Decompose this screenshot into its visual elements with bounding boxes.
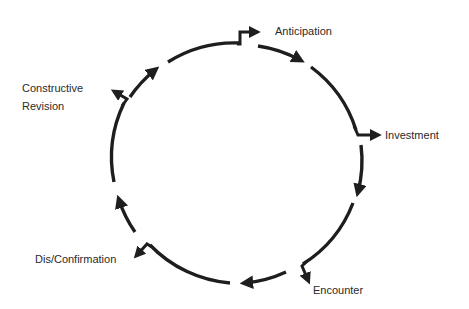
cycle-arc-upper-left: [130, 70, 155, 97]
cycle-arc-bottom-right: [245, 272, 286, 283]
cycle-arc-upper-right: [311, 67, 356, 130]
cycle-arc-left: [112, 103, 124, 182]
disconfirmation-branch-arrow: [137, 244, 152, 255]
constructive-revision-branch-arrow: [115, 92, 127, 106]
cycle-arc-lower-right: [303, 203, 353, 264]
stage-label-constructive-revision: Constructive Revision: [22, 81, 83, 113]
cycle-arc-lower-left: [119, 200, 135, 232]
stage-label-anticipation: Anticipation: [275, 24, 332, 38]
cycle-arc-anticipation-to-investment: [258, 46, 300, 60]
stage-label-encounter: Encounter: [313, 283, 363, 297]
stage-label-constructive-revision-line1: Constructive: [22, 81, 83, 95]
cycle-arc-bottom-left: [150, 245, 230, 283]
stage-label-dis-confirmation: Dis/Confirmation: [35, 252, 116, 266]
cycle-arc-right: [358, 145, 362, 192]
encounter-branch-arrow: [302, 262, 308, 280]
cycle-arc-top: [168, 43, 240, 62]
investment-branch-arrow: [354, 126, 377, 135]
stage-label-investment: Investment: [385, 128, 439, 142]
anticipation-branch-arrow: [237, 32, 256, 44]
stage-label-constructive-revision-line2: Revision: [22, 99, 83, 113]
